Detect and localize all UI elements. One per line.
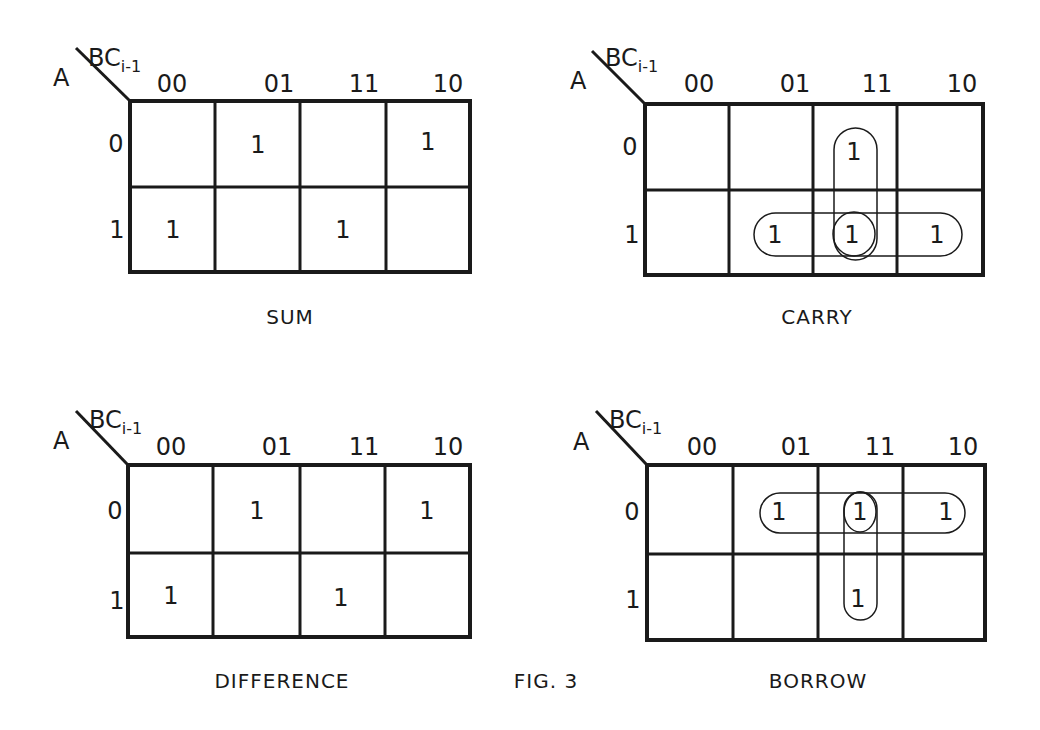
row-header: 0: [624, 498, 639, 526]
kmap-cell: 1: [852, 498, 867, 526]
col-header: 00: [684, 70, 715, 98]
row-header: 0: [107, 497, 122, 525]
kmap-cell: 1: [419, 497, 434, 525]
row-var-label: A: [53, 427, 70, 455]
kmap-caption: SUM: [266, 305, 314, 329]
kmap-borrow: A BCi-1 00 01 11 10 0 1 1 1 1 1 BORROW: [573, 406, 985, 693]
col-header: 00: [156, 433, 187, 461]
kmap-caption: CARRY: [781, 305, 852, 329]
row-header: 1: [624, 221, 639, 249]
kmap-cell: 1: [165, 216, 180, 244]
row-header: 1: [109, 587, 124, 615]
col-header: 11: [865, 433, 896, 461]
row-header: 1: [109, 216, 124, 244]
kmap-cell: 1: [844, 221, 859, 249]
col-header: 11: [862, 70, 893, 98]
row-var-label: A: [570, 67, 587, 95]
col-header: 01: [780, 70, 811, 98]
kmap-carry: A BCi-1 00 01 11 10 0 1 1 1 1 1 CARRY: [570, 44, 983, 329]
kmap-cell: 1: [846, 138, 861, 166]
col-header: 11: [349, 70, 380, 98]
kmap-cell: 1: [250, 131, 265, 159]
kmap-cell: 1: [249, 497, 264, 525]
col-var-label: BCi-1: [609, 406, 662, 438]
figure-label: FIG. 3: [514, 669, 578, 693]
kmap-difference: A BCi-1 00 01 11 10 0 1 1 1 1 1 DIFFEREN…: [53, 406, 470, 693]
kmap-cell: 1: [420, 128, 435, 156]
figure-canvas: A BCi-1 00 01 11 10 0 1 1 1 1 1 SUM A BC…: [0, 0, 1040, 730]
row-header: 0: [622, 133, 637, 161]
kmap-cell: 1: [335, 216, 350, 244]
col-header: 11: [349, 433, 380, 461]
kmap-sum: A BCi-1 00 01 11 10 0 1 1 1 1 1 SUM: [53, 44, 470, 329]
kmap-caption: BORROW: [769, 669, 867, 693]
col-var-label: BCi-1: [88, 44, 141, 76]
col-header: 10: [948, 433, 979, 461]
col-header: 00: [687, 433, 718, 461]
col-var-label: BCi-1: [605, 44, 658, 76]
col-header: 00: [157, 70, 188, 98]
kmap-cell: 1: [771, 498, 786, 526]
col-header: 10: [433, 70, 464, 98]
kmap-cell: 1: [929, 221, 944, 249]
col-header: 10: [433, 433, 464, 461]
row-header: 1: [625, 586, 640, 614]
kmap-cell: 1: [938, 498, 953, 526]
kmap-cell: 1: [767, 221, 782, 249]
kmap-cell: 1: [333, 584, 348, 612]
col-header: 01: [264, 70, 295, 98]
row-var-label: A: [573, 428, 590, 456]
col-header: 01: [781, 433, 812, 461]
kmap-cell: 1: [850, 585, 865, 613]
kmap-cell: 1: [163, 582, 178, 610]
kmap-caption: DIFFERENCE: [214, 669, 349, 693]
row-var-label: A: [53, 64, 70, 92]
col-header: 01: [262, 433, 293, 461]
col-var-label: BCi-1: [89, 406, 142, 438]
col-header: 10: [947, 70, 978, 98]
row-header: 0: [108, 130, 123, 158]
